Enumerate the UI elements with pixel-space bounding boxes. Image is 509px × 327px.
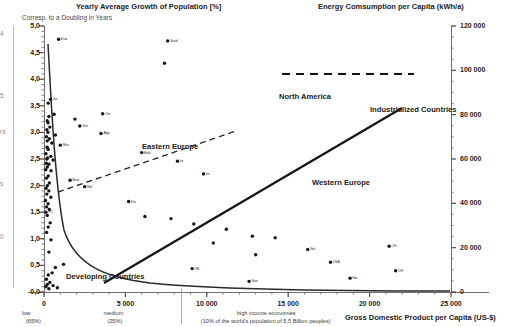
data-point bbox=[47, 189, 50, 192]
point-label-Kuw: Kuw bbox=[61, 37, 67, 41]
data-point bbox=[127, 200, 130, 203]
y-tick-1,5: 1,5 bbox=[14, 208, 40, 215]
data-point bbox=[251, 234, 254, 237]
data-point bbox=[101, 112, 104, 115]
y-tick-1,0: 1,0 bbox=[14, 235, 40, 242]
data-point bbox=[45, 231, 48, 234]
y-tick-0,5: 0,5 bbox=[14, 261, 40, 268]
developing-countries-curve bbox=[48, 44, 450, 291]
y2-tick-40000: 40 000 bbox=[460, 199, 481, 206]
data-point bbox=[329, 261, 332, 264]
data-point bbox=[45, 176, 48, 179]
data-point bbox=[51, 158, 54, 161]
trend-curves bbox=[48, 44, 450, 291]
point-label-Isr: Isr bbox=[180, 159, 183, 163]
annotation-north-america: North America bbox=[279, 92, 331, 101]
data-point bbox=[47, 250, 50, 253]
data-point bbox=[273, 236, 276, 239]
data-point bbox=[44, 199, 47, 202]
y2-tick-60000: 60 000 bbox=[460, 155, 481, 162]
data-point bbox=[73, 117, 76, 120]
point-label-USA: USA bbox=[333, 260, 340, 264]
industrialized-countries-line bbox=[104, 108, 402, 283]
data-point bbox=[45, 135, 48, 138]
data-point bbox=[143, 215, 146, 218]
data-point bbox=[52, 113, 55, 116]
data-point bbox=[44, 187, 47, 190]
data-point bbox=[99, 132, 102, 135]
data-point bbox=[47, 287, 50, 290]
x-note-sub-1: (25%) bbox=[107, 318, 122, 324]
data-point bbox=[46, 131, 49, 134]
x-note-sub-0: (65%) bbox=[26, 318, 41, 324]
data-point bbox=[50, 271, 53, 274]
data-point bbox=[49, 196, 52, 199]
data-point bbox=[254, 253, 257, 256]
data-point bbox=[83, 185, 86, 188]
data-point bbox=[166, 39, 169, 42]
point-label-Saud: Saud bbox=[170, 39, 178, 43]
annotation-developing-countries: Developing Countries bbox=[66, 272, 144, 281]
point-label-Om: Om bbox=[105, 112, 110, 116]
x-tick-25000: 25 000 bbox=[435, 300, 467, 307]
data-point bbox=[306, 248, 309, 251]
data-point bbox=[45, 278, 48, 281]
point-label-CH: CH bbox=[398, 269, 403, 273]
data-point bbox=[46, 214, 49, 217]
data-point bbox=[56, 286, 59, 289]
data-point bbox=[202, 172, 205, 175]
data-points bbox=[44, 38, 398, 291]
data-point bbox=[48, 125, 51, 128]
point-label-CH: CH bbox=[392, 244, 397, 248]
data-point bbox=[140, 151, 143, 154]
edge-label-2: rs bbox=[0, 128, 5, 135]
edge-label-0: 4 bbox=[0, 30, 4, 37]
data-point bbox=[45, 192, 48, 195]
data-point bbox=[62, 263, 65, 266]
edge-label-1: 5 bbox=[0, 92, 4, 99]
x-tick-20000: 20 000 bbox=[354, 300, 386, 307]
y2-tick-80000: 80 000 bbox=[460, 111, 481, 118]
y-tick-4,0: 4,0 bbox=[14, 75, 40, 82]
point-label-Net: Net bbox=[310, 247, 315, 251]
chart-root: Yearly Average Growth of Population [%] … bbox=[0, 0, 509, 327]
point-label-Braz: Braz bbox=[72, 178, 79, 182]
x-tick-10000: 10 000 bbox=[191, 300, 223, 307]
annotation-western-europe: Western Europe bbox=[312, 178, 370, 187]
data-point bbox=[46, 121, 49, 124]
point-label-Alge: Alge bbox=[103, 131, 109, 135]
data-point bbox=[387, 245, 390, 248]
point-label-Mex: Mex bbox=[63, 143, 69, 147]
data-point bbox=[44, 152, 47, 155]
y2-tick-100000: 100 000 bbox=[460, 66, 485, 73]
x-tick-15000: 15 000 bbox=[272, 300, 304, 307]
y-tick-3,0: 3,0 bbox=[14, 128, 40, 135]
data-point bbox=[47, 273, 50, 276]
data-point bbox=[44, 168, 47, 171]
y-tick-2,5: 2,5 bbox=[14, 155, 40, 162]
point-label-GB: GB bbox=[195, 267, 200, 271]
y-tick-4,5: 4,5 bbox=[14, 49, 40, 56]
data-point bbox=[44, 211, 47, 214]
data-point bbox=[176, 159, 179, 162]
data-point bbox=[247, 280, 250, 283]
eastern-europe-dashed-line bbox=[58, 131, 236, 192]
data-point bbox=[190, 267, 193, 270]
data-point bbox=[212, 241, 215, 244]
point-label-Mal: Mal bbox=[87, 185, 92, 189]
data-point bbox=[348, 276, 351, 279]
tick-marks bbox=[39, 26, 456, 297]
point-label-Bahr: Bahr bbox=[144, 151, 151, 155]
y2-tick-0: 0 bbox=[460, 288, 464, 295]
data-point bbox=[192, 222, 195, 225]
x-note-label-2: high income economies bbox=[237, 310, 296, 316]
x-note-label-0: low bbox=[22, 310, 30, 316]
data-point bbox=[57, 38, 60, 41]
data-point bbox=[49, 98, 52, 101]
y-tick-5,0: 5,0 bbox=[14, 22, 40, 29]
y-tick-2,0: 2,0 bbox=[14, 182, 40, 189]
edge-label-3: s bbox=[0, 180, 3, 187]
data-point bbox=[59, 143, 62, 146]
point-label-Kor: Kor bbox=[131, 200, 136, 204]
data-point bbox=[47, 101, 50, 104]
